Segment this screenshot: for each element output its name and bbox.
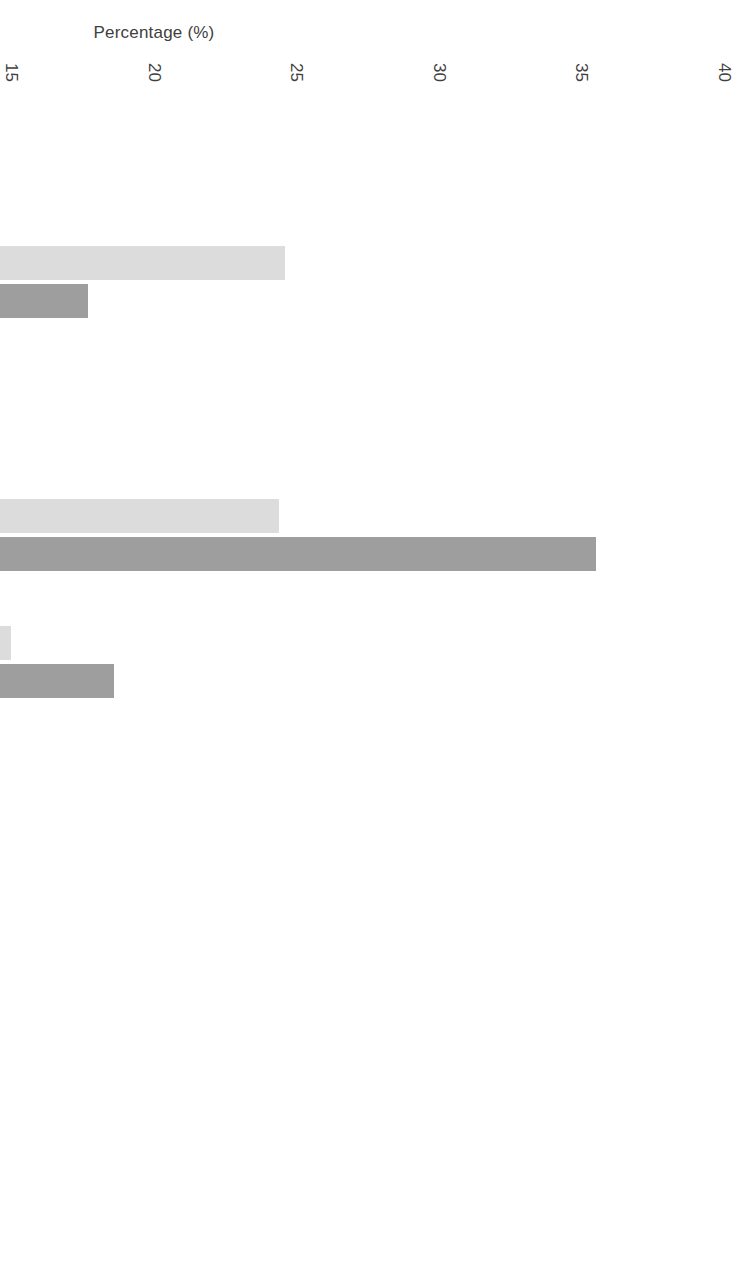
bar-group bbox=[0, 499, 724, 571]
bar-group bbox=[0, 373, 724, 445]
y-tick-25: 25 bbox=[287, 63, 307, 82]
bar-group bbox=[0, 1006, 724, 1078]
bar-group bbox=[0, 119, 724, 191]
bar-women bbox=[0, 664, 114, 698]
bar-women bbox=[0, 284, 88, 318]
bar-men bbox=[0, 246, 285, 280]
bar-group bbox=[0, 1133, 724, 1205]
bar-group bbox=[0, 879, 724, 951]
bar-men bbox=[0, 626, 12, 660]
y-tick-30: 30 bbox=[429, 63, 449, 82]
y-tick-35: 35 bbox=[572, 63, 592, 82]
bar-group bbox=[0, 246, 724, 318]
bar-group bbox=[0, 626, 724, 698]
y-tick-40: 40 bbox=[714, 63, 734, 82]
y-tick-20: 20 bbox=[144, 63, 164, 82]
bar-group bbox=[0, 753, 724, 825]
bar-men bbox=[0, 499, 279, 533]
y-axis-tick-labels: 0510152025303540 bbox=[0, 40, 724, 86]
y-tick-15: 15 bbox=[2, 63, 22, 82]
plot-area bbox=[0, 92, 724, 1232]
bar-women bbox=[0, 537, 596, 571]
